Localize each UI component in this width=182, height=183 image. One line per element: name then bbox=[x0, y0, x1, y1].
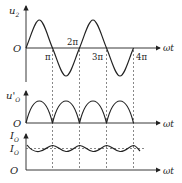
io-axis-label: IO bbox=[9, 130, 19, 143]
top-plot: u2 O π 2π 3π 4π ωt bbox=[9, 5, 174, 82]
origin-label-top: O bbox=[13, 43, 21, 54]
tick-2pi: 2π bbox=[67, 37, 78, 47]
middle-plot: u'O O ωt bbox=[6, 90, 174, 129]
uo-label: u'O bbox=[6, 90, 20, 103]
x-label-middle: ωt bbox=[163, 119, 174, 129]
tick-3pi: 3π bbox=[92, 52, 103, 62]
u2-label: u2 bbox=[9, 5, 19, 18]
origin-label-middle: O bbox=[13, 118, 21, 129]
io-level-label: IO bbox=[9, 143, 19, 156]
x-label-bottom: ωt bbox=[163, 166, 174, 176]
x-label-top: ωt bbox=[163, 43, 174, 53]
tick-4pi: 4π bbox=[136, 52, 147, 62]
origin-label-bottom: O bbox=[10, 165, 18, 176]
rectifier-waveform-diagram: u2 O π 2π 3π 4π ωt u'O O ωt IO IO O ωt bbox=[0, 0, 182, 183]
tick-pi: π bbox=[45, 52, 51, 62]
bottom-plot: IO IO O ωt bbox=[9, 130, 174, 176]
